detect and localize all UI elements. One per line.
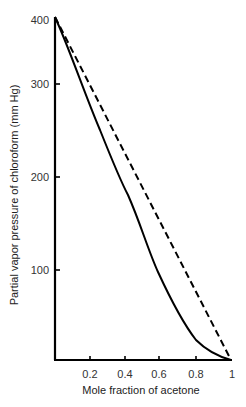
y-tick-label-100: 100 (31, 264, 49, 276)
x-tick-label-1: 1 (229, 368, 235, 380)
x-axis-title: Mole fraction of acetone (82, 384, 199, 396)
y-tick-label-200: 200 (31, 171, 49, 183)
x-tick-label-0.8: 0.8 (188, 368, 203, 380)
ideal-dashed-line (55, 17, 231, 360)
vapor-pressure-chart: 100 200 300 400 0.2 0.4 0.6 0.8 1 Mole f… (0, 0, 246, 407)
y-tick-label-300: 300 (31, 78, 49, 90)
y-axis-title: Partial vapor pressure of chloroform (mm… (8, 85, 20, 306)
x-tick-label-0.2: 0.2 (82, 368, 97, 380)
x-tick-label-0.6: 0.6 (151, 368, 166, 380)
x-tick-label-0.4: 0.4 (117, 368, 132, 380)
y-tick-label-400: 400 (31, 14, 49, 26)
